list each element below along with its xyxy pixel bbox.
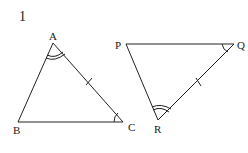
- vertex-label-c: C: [128, 121, 135, 133]
- triangle-abc-outline: [18, 43, 123, 122]
- vertex-label-b: B: [13, 124, 20, 136]
- vertex-label-q: Q: [237, 39, 245, 51]
- question-number: 1: [19, 9, 26, 24]
- triangle-pqr-outline: [126, 44, 234, 120]
- triangle-abc: [18, 43, 123, 122]
- vertex-label-p: P: [115, 39, 121, 51]
- angle-a-arc-outer: [46, 54, 65, 59]
- vertex-label-r: R: [154, 123, 162, 135]
- angle-c-arc: [114, 113, 118, 122]
- triangle-pqr: [126, 44, 234, 120]
- congruent-triangles-diagram: 1 A B C P Q R: [0, 0, 248, 153]
- vertex-label-a: A: [49, 30, 57, 42]
- angle-a-arc-inner: [47, 52, 63, 56]
